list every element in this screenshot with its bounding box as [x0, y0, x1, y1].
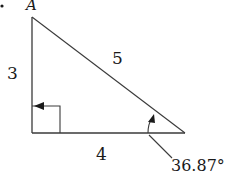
side-label-horizontal: 4: [96, 144, 107, 164]
side-hypotenuse: [32, 17, 185, 133]
angle-leader-line: [149, 135, 172, 158]
side-label-hypotenuse: 5: [112, 48, 123, 68]
angle-label: 36.87°: [171, 156, 225, 173]
right-angle-marker: [32, 106, 60, 133]
triangle-diagram: A 3 5 4 36.87°: [0, 0, 226, 173]
side-label-vertical: 3: [7, 63, 18, 83]
vertex-label-a: A: [24, 0, 37, 14]
right-angle-arrow-icon: [34, 102, 44, 110]
bullet-dot: [0, 4, 3, 7]
angle-arrow-icon: [148, 114, 155, 123]
